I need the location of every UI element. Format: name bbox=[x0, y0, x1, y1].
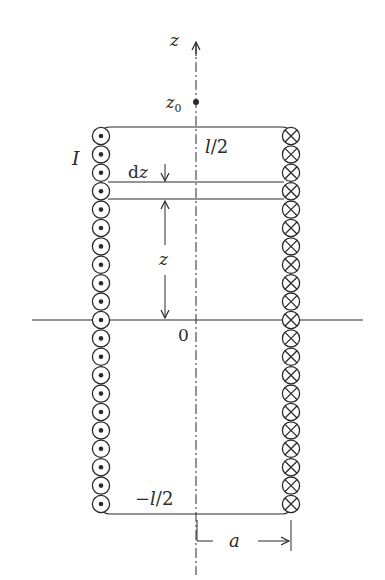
winding-cross-icon bbox=[282, 275, 299, 292]
winding-dot-icon bbox=[92, 275, 109, 292]
winding-dot-icon bbox=[92, 367, 109, 384]
winding-dot-icon bbox=[92, 477, 109, 494]
winding-cross-icon bbox=[282, 127, 299, 144]
winding-cross-icon bbox=[282, 385, 299, 402]
winding-cross-icon bbox=[282, 422, 299, 439]
winding-dot-icon bbox=[92, 348, 109, 365]
winding-cross-icon bbox=[282, 238, 299, 255]
winding-dot-icon bbox=[92, 201, 109, 218]
winding-dot-icon bbox=[92, 422, 109, 439]
current-label: I bbox=[71, 147, 80, 169]
winding-cross-icon bbox=[282, 477, 299, 494]
winding-dot-icon bbox=[92, 183, 109, 200]
winding-cross-icon bbox=[282, 348, 299, 365]
winding-dot-icon bbox=[92, 311, 109, 328]
winding-dot-icon bbox=[92, 459, 109, 476]
winding-cross-icon bbox=[282, 219, 299, 236]
winding-cross-icon bbox=[282, 330, 299, 347]
winding-dot-icon bbox=[92, 495, 109, 512]
right-windings bbox=[282, 127, 299, 512]
winding-dot-icon bbox=[92, 440, 109, 457]
winding-dot-icon bbox=[92, 219, 109, 236]
winding-dot-icon bbox=[92, 385, 109, 402]
bottom-label: −l/2 bbox=[135, 488, 173, 509]
winding-dot-icon bbox=[92, 403, 109, 420]
winding-cross-icon bbox=[282, 311, 299, 328]
winding-cross-icon bbox=[282, 164, 299, 181]
winding-dot-icon bbox=[92, 164, 109, 181]
z-distance-label: z bbox=[158, 249, 169, 269]
radius-label: a bbox=[229, 530, 240, 551]
winding-dot-icon bbox=[92, 256, 109, 273]
winding-cross-icon bbox=[282, 201, 299, 218]
winding-cross-icon bbox=[282, 256, 299, 273]
winding-cross-icon bbox=[282, 293, 299, 310]
z0-point-icon bbox=[193, 99, 199, 105]
winding-dot-icon bbox=[92, 146, 109, 163]
solenoid-diagram: z z0 l/2 −l/2 dz z 0 I bbox=[0, 0, 385, 580]
winding-dot-icon bbox=[92, 330, 109, 347]
top-label: l/2 bbox=[205, 136, 228, 157]
origin-label: 0 bbox=[178, 325, 189, 345]
winding-cross-icon bbox=[282, 403, 299, 420]
winding-dot-icon bbox=[92, 293, 109, 310]
winding-cross-icon bbox=[282, 440, 299, 457]
winding-dot-icon bbox=[92, 127, 109, 144]
winding-cross-icon bbox=[282, 459, 299, 476]
winding-cross-icon bbox=[282, 146, 299, 163]
z-axis-label: z bbox=[169, 30, 180, 50]
winding-cross-icon bbox=[282, 367, 299, 384]
diagram-svg: z z0 l/2 −l/2 dz z 0 I bbox=[0, 0, 385, 580]
radius-dimension bbox=[197, 520, 291, 551]
winding-dot-icon bbox=[92, 238, 109, 255]
left-windings bbox=[92, 127, 109, 512]
winding-cross-icon bbox=[282, 183, 299, 200]
winding-cross-icon bbox=[282, 495, 299, 512]
z0-label: z0 bbox=[165, 93, 181, 115]
dz-label: dz bbox=[128, 162, 149, 182]
